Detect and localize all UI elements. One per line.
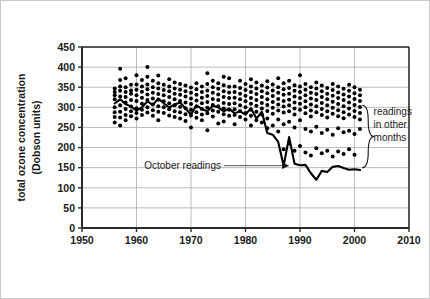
scatter-point [325,97,329,101]
scatter-point [216,92,220,96]
scatter-point [184,112,188,116]
scatter-point [244,99,248,103]
scatter-point [320,84,324,88]
scatter-point [325,149,329,153]
scatter-point [309,115,313,119]
scatter-point [113,121,117,125]
scatter-point [303,105,307,109]
scatter-point [249,96,253,100]
scatter-point [282,122,286,126]
scatter-point [129,98,133,102]
scatter-point [298,102,302,106]
scatter-point [271,106,275,110]
scatter-point [194,93,198,97]
scatter-point [194,87,198,91]
scatter-point [303,150,307,154]
scatter-point [145,105,149,109]
scatter-point [287,79,291,83]
scatter-point [282,105,286,109]
scatter-point [336,96,340,100]
scatter-point [331,133,335,137]
scatter-point [325,92,329,96]
scatter-point [309,85,313,89]
scatter-point [265,97,269,101]
scatter-point [336,126,340,130]
scatter-point [227,90,231,94]
scatter-point [113,86,117,90]
scatter-point [156,86,160,90]
october-readings-label: October readings [144,160,221,171]
x-tick-label: 2000 [343,234,367,246]
scatter-point [222,89,226,93]
scatter-point [282,87,286,91]
scatter-point [145,92,149,96]
scatter-point [200,113,204,117]
scatter-point [249,123,253,127]
scatter-point [184,84,188,88]
y-tick-label: 200 [57,141,75,153]
scatter-point [265,117,269,121]
scatter-point [113,93,117,97]
scatter-point [244,94,248,98]
scatter-point [156,74,160,78]
scatter-point [314,92,318,96]
scatter-point [265,103,269,107]
scatter-point [276,117,280,121]
scatter-point [342,92,346,96]
scatter-point [276,103,280,107]
scatter-point [238,79,242,83]
scatter-point [244,88,248,92]
scatter-point [325,86,329,90]
scatter-point [211,109,215,113]
scatter-point [140,113,144,117]
scatter-point [309,129,313,133]
scatter-point [124,95,128,99]
scatter-point [309,103,313,107]
scatter-point [298,108,302,112]
scatter-point [233,96,237,100]
x-tick-label: 1960 [125,234,149,246]
scatter-point [113,115,117,119]
scatter-point [347,107,351,111]
scatter-point [151,91,155,95]
scatter-point [205,71,209,75]
scatter-point [342,152,346,156]
scatter-point [156,81,160,85]
scatter-point [184,89,188,93]
scatter-point [271,82,275,86]
scatter-point [238,103,242,107]
scatter-point [271,94,275,98]
scatter-point [265,86,269,90]
scatter-point [309,91,313,95]
scatter-point [167,95,171,99]
scatter-point [162,93,166,97]
scatter-point [173,80,177,84]
scatter-point [135,99,139,103]
scatter-point [260,89,264,93]
scatter-point [129,109,133,113]
scatter-point [265,79,269,83]
scatter-point [260,101,264,105]
scatter-point [287,92,291,96]
scatter-point [184,101,188,105]
scatter-point [184,119,188,123]
scatter-point [249,90,253,94]
scatter-point [200,90,204,94]
scatter-point [276,91,280,95]
scatter-point [211,85,215,89]
scatter-point [314,125,318,129]
scatter-point [145,87,149,91]
scatter-point [151,114,155,118]
scatter-point [309,96,313,100]
scatter-point [303,99,307,103]
scatter-point [303,127,307,131]
scatter-point [129,114,133,118]
scatter-point [342,116,346,120]
other-months-label-line2: in other [374,119,408,130]
scatter-point [238,92,242,96]
scatter-point [287,86,291,90]
scatter-point [303,93,307,97]
scatter-point [287,120,291,124]
scatter-point [358,88,362,92]
scatter-point [222,95,226,99]
